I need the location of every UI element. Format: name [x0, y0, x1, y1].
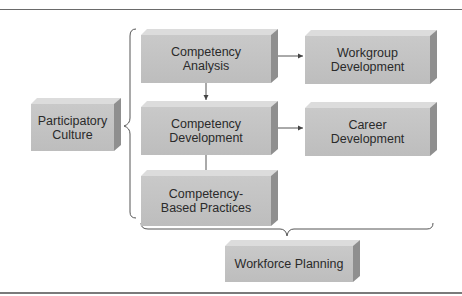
- box-competency-analysis: CompetencyAnalysis: [141, 29, 278, 83]
- box-label-line: Competency: [171, 45, 241, 59]
- box-front-face: CompetencyDevelopment: [141, 107, 271, 155]
- box-side-face: [271, 101, 278, 155]
- box-competency-development: CompetencyDevelopment: [141, 101, 278, 155]
- box-label-line: Based Practices: [161, 201, 251, 215]
- vertical-brace: [124, 29, 136, 218]
- box-label-line: Participatory: [38, 114, 107, 128]
- box-side-face: [353, 240, 360, 282]
- box-front-face: WorkgroupDevelopment: [305, 36, 430, 84]
- box-label-line: Competency-: [169, 187, 243, 201]
- box-front-face: CareerDevelopment: [305, 108, 430, 156]
- box-front-face: CompetencyAnalysis: [141, 35, 271, 83]
- bottom-rule: [0, 292, 462, 294]
- box-side-face: [271, 29, 278, 83]
- box-label-line: Workgroup: [337, 46, 398, 60]
- box-label-line: Workforce Planning: [235, 257, 344, 271]
- box-label-line: Career: [348, 118, 386, 132]
- box-career-development: CareerDevelopment: [305, 102, 437, 156]
- box-label-line: Development: [331, 132, 405, 146]
- box-front-face: Competency-Based Practices: [141, 176, 271, 226]
- box-label-line: Development: [169, 131, 243, 145]
- box-competency-based-practices: Competency-Based Practices: [141, 170, 278, 226]
- box-side-face: [114, 98, 121, 151]
- box-workgroup-development: WorkgroupDevelopment: [305, 30, 437, 84]
- box-front-face: ParticipatoryCulture: [31, 104, 114, 151]
- box-label-line: Competency: [171, 117, 241, 131]
- box-workforce-planning: Workforce Planning: [225, 240, 360, 282]
- box-side-face: [430, 30, 437, 84]
- box-front-face: Workforce Planning: [225, 246, 353, 282]
- box-side-face: [430, 102, 437, 156]
- box-side-face: [271, 170, 278, 226]
- box-label-line: Analysis: [183, 59, 230, 73]
- box-label-line: Development: [331, 60, 405, 74]
- box-participatory-culture: ParticipatoryCulture: [31, 98, 121, 151]
- box-label-line: Culture: [52, 128, 92, 142]
